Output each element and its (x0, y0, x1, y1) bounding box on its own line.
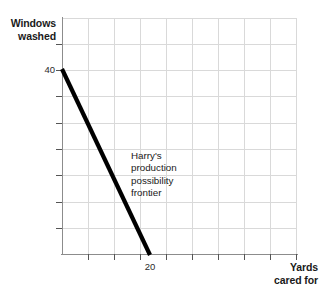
ppf-annotation-line2: production (131, 162, 177, 174)
x-axis-title: Yards cared for (228, 261, 318, 286)
y-axis-title-line1: Windows (11, 17, 56, 29)
ppf-annotation-line1: Harry's (131, 150, 177, 162)
vertical-gridlines (89, 18, 297, 254)
y-tick-label-40: 40 (22, 64, 55, 75)
chart-plot-area (0, 0, 323, 292)
ppf-annotation: Harry's production possibility frontier (131, 150, 177, 200)
y-axis-title: Windows washed (0, 17, 56, 42)
x-tick-label-20: 20 (133, 261, 167, 272)
y-axis-title-line2: washed (18, 30, 56, 42)
ppf-annotation-line4: frontier (131, 187, 177, 199)
y-axis-ticks (56, 45, 62, 229)
ppf-chart-figure: Windows washed Yards cared for 40 20 Har… (0, 0, 323, 292)
horizontal-gridlines (62, 19, 297, 229)
x-axis-title-line1: Yards (290, 261, 318, 273)
ppf-annotation-line3: possibility (131, 175, 177, 187)
x-axis-title-line2: cared for (274, 274, 318, 286)
